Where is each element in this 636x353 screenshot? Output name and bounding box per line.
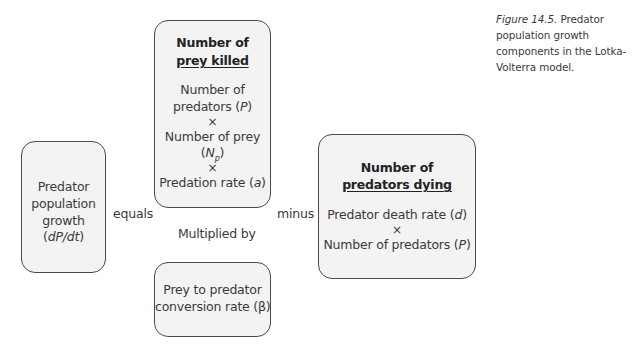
growth-line-2: population: [22, 196, 105, 212]
prey-killed-box: Number of prey killed Number of predator…: [154, 20, 271, 208]
figure-label: Figure 14.5.: [496, 13, 557, 25]
conversion-line-2: conversion rate (β): [155, 299, 270, 315]
multiplied-by-label: Multiplied by: [178, 226, 256, 242]
minus-label: minus: [277, 206, 314, 222]
prey-killed-title-2: prey killed: [155, 53, 270, 69]
predators-dying-title-2: predators dying: [319, 177, 475, 193]
prey-killed-line-5: Predation rate (a): [155, 175, 270, 191]
conversion-rate-box: Prey to predator conversion rate (β): [154, 262, 271, 337]
figure-caption: Figure 14.5. Predator population growth …: [496, 11, 636, 75]
times-icon: ×: [319, 222, 475, 238]
growth-variable: (dP/dt): [22, 229, 105, 245]
predator-growth-box: Predator population growth (dP/dt): [21, 141, 106, 273]
conversion-line-1: Prey to predator: [155, 282, 270, 298]
predators-dying-line-2: Number of predators (P): [319, 237, 475, 253]
predators-dying-box: Number of predators dying Predator death…: [318, 134, 476, 279]
predators-dying-line-1: Predator death rate (d): [319, 207, 475, 223]
times-icon: ×: [155, 114, 270, 130]
times-icon: ×: [155, 160, 270, 176]
prey-killed-line-2: predators (P): [155, 99, 270, 115]
prey-killed-line-3: Number of prey: [155, 129, 270, 145]
growth-line-1: Predator: [22, 179, 105, 195]
prey-killed-line-1: Number of: [155, 82, 270, 98]
prey-killed-title-1: Number of: [155, 35, 270, 51]
predators-dying-title-1: Number of: [319, 160, 475, 176]
growth-line-3: growth: [22, 213, 105, 229]
equals-label: equals: [113, 206, 153, 222]
